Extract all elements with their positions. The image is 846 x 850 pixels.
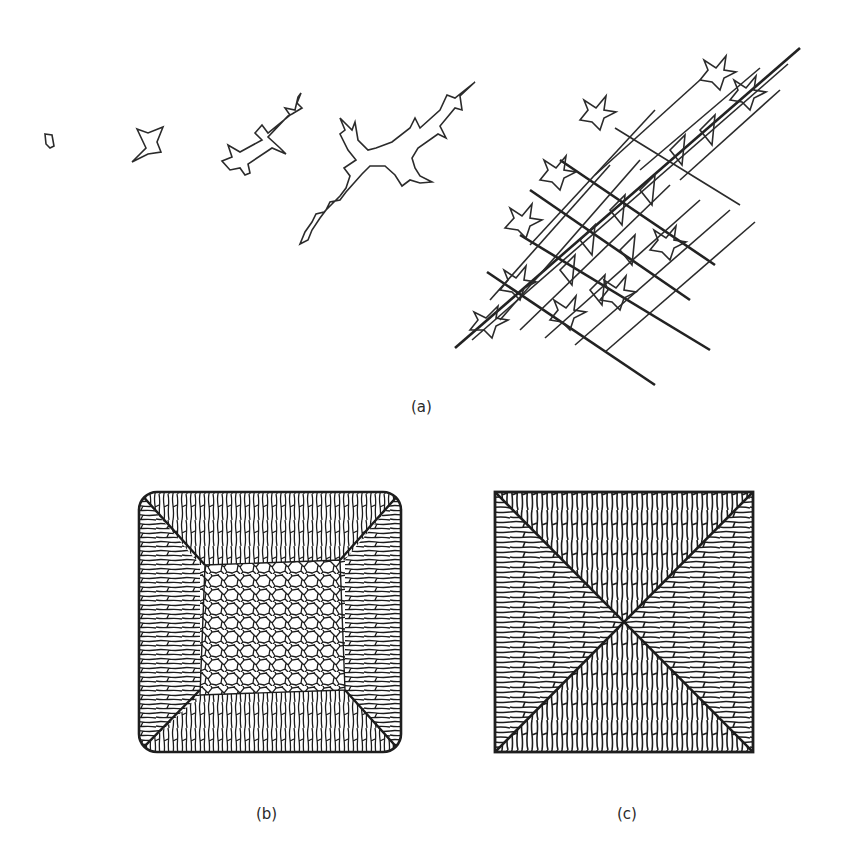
panel-c-label: (c)	[617, 805, 637, 823]
nucleus-stage-1	[45, 134, 54, 148]
ingot-c-grains	[495, 492, 753, 752]
panel-a-label: (a)	[411, 398, 432, 416]
crystal-growth-figure: (a)	[0, 0, 846, 850]
dendrite-stage-3	[222, 93, 302, 175]
panel-a-dendrite-growth	[0, 0, 846, 420]
ingot-b-grains	[139, 492, 401, 752]
dendrite-stage-4	[300, 82, 475, 244]
panel-b-label: (b)	[256, 805, 277, 823]
star-crystal-stage-2	[132, 127, 163, 162]
dendrite-network-stage-5	[455, 48, 800, 385]
